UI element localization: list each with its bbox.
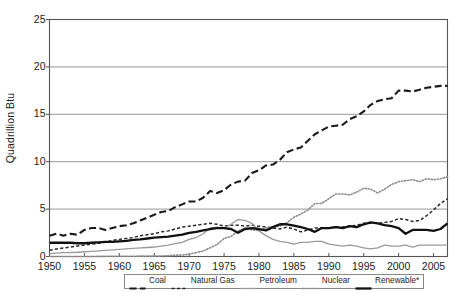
legend-item-petroleum: Petroleum xyxy=(240,277,297,285)
legend-swatch-solid-thin-icon xyxy=(240,278,257,285)
legend-swatch-long-dash-icon xyxy=(129,278,146,285)
y-tick-label-20: 20 xyxy=(18,60,46,72)
legend-label: Nuclear xyxy=(322,277,350,285)
x-tick-label-2005: 2005 xyxy=(414,260,454,272)
legend-item-natural-gas: Natural Gas xyxy=(171,277,235,285)
legend-label: Petroleum xyxy=(260,277,297,285)
legend-label: Coal xyxy=(149,277,166,285)
legend-swatch-solid-thick-icon xyxy=(355,278,372,285)
plot-area xyxy=(0,0,464,300)
legend-item-nuclear: Nuclear xyxy=(302,277,350,285)
legend-item-coal: Coal xyxy=(129,277,166,285)
series-line-nuclear xyxy=(50,177,448,257)
y-tick-label-10: 10 xyxy=(18,155,46,167)
y-tick-label-5: 5 xyxy=(18,202,46,214)
legend-swatch-dotted-icon xyxy=(302,278,319,285)
energy-consumption-line-chart: Quadrillion Btu 0510152025 1950195519601… xyxy=(0,0,464,300)
y-tick-label-15: 15 xyxy=(18,107,46,119)
y-tick-label-25: 25 xyxy=(18,13,46,25)
series-line-coal xyxy=(50,86,448,236)
legend-label: Renewable* xyxy=(375,277,419,285)
plot-frame xyxy=(50,20,448,257)
chart-legend: CoalNatural GasPetroleumNuclearRenewable… xyxy=(124,274,424,289)
legend-label: Natural Gas xyxy=(191,277,235,285)
legend-swatch-short-dash-icon xyxy=(171,278,188,285)
legend-item-renewable: Renewable* xyxy=(355,277,419,285)
